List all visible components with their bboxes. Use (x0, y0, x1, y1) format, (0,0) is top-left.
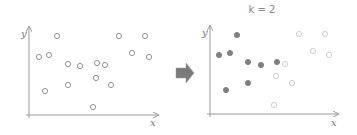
left-panel: y x (20, 27, 158, 128)
cluster-2-point (289, 80, 294, 85)
cluster-2-point (273, 73, 278, 78)
cluster-1-point (245, 59, 250, 64)
data-point (129, 50, 134, 55)
right-points (216, 31, 331, 107)
cluster-2-point (282, 61, 287, 66)
left-x-label: x (150, 117, 156, 128)
right-arrow-icon (176, 63, 194, 83)
left-points (36, 33, 151, 109)
cluster-1-point (223, 87, 228, 92)
data-point (93, 75, 98, 80)
data-point (108, 82, 113, 87)
kmeans-diagram: y x k = 2 y x (0, 0, 357, 135)
cluster-2-point (310, 48, 315, 53)
data-point (65, 61, 70, 66)
cluster-2-point (326, 52, 331, 57)
right-x-label: x (331, 117, 337, 128)
cluster-1-point (245, 80, 250, 85)
data-point (142, 33, 147, 38)
cluster-1-point (216, 52, 221, 57)
cluster-1-point (227, 50, 232, 55)
cluster-2-point (322, 31, 327, 36)
data-point (90, 104, 95, 109)
cluster-1-point (274, 59, 279, 64)
data-point (102, 62, 107, 67)
cluster-2-point (296, 31, 301, 36)
data-point (116, 33, 121, 38)
data-point (54, 33, 59, 38)
cluster-1-point (234, 32, 239, 37)
cluster-2-point (271, 102, 276, 107)
data-point (77, 63, 82, 68)
data-point (94, 60, 99, 65)
data-point (65, 82, 70, 87)
diagram-title: k = 2 (249, 4, 276, 15)
cluster-1-point (258, 62, 263, 67)
data-point (146, 54, 151, 59)
left-y-label: y (20, 28, 27, 39)
right-panel: k = 2 y x (201, 4, 338, 128)
data-point (42, 88, 47, 93)
data-point (36, 54, 41, 59)
right-y-label: y (201, 27, 208, 38)
data-point (46, 52, 51, 57)
